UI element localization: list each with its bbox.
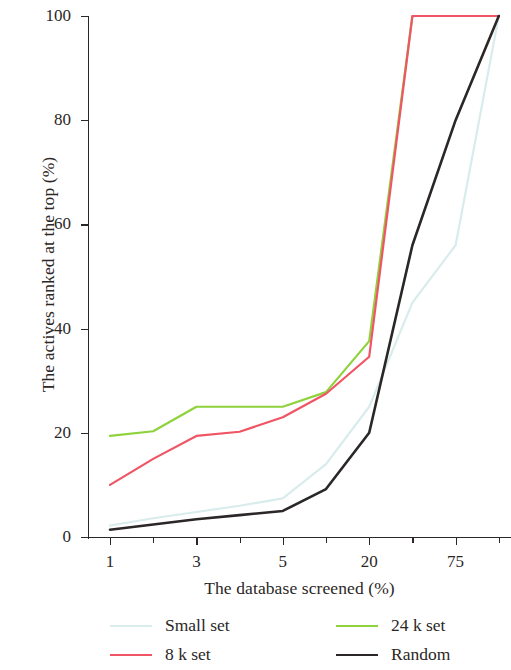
legend-item[interactable]: 24 k set bbox=[336, 612, 445, 639]
legend-swatch bbox=[110, 625, 152, 627]
legend-swatch bbox=[336, 654, 378, 656]
series-line bbox=[110, 16, 499, 436]
y-axis-tick: 60 bbox=[81, 224, 88, 225]
x-axis-tick-label: 3 bbox=[192, 552, 201, 572]
legend-item[interactable]: Small set bbox=[110, 612, 230, 639]
series-line bbox=[110, 16, 499, 526]
y-axis-tick-label: 20 bbox=[54, 423, 71, 443]
series-line bbox=[110, 16, 499, 485]
chart-legend: Small set8 k set24 k setRandom bbox=[88, 612, 511, 670]
legend-item[interactable]: 8 k set bbox=[110, 641, 211, 668]
y-axis-tick-label: 40 bbox=[54, 319, 71, 339]
legend-label: Random bbox=[391, 646, 450, 664]
x-axis-title: The database screened (%) bbox=[88, 578, 511, 599]
y-axis-tick-label: 0 bbox=[63, 527, 72, 547]
legend-label: Small set bbox=[165, 617, 230, 635]
x-axis-tick-label: 1 bbox=[106, 552, 115, 572]
y-axis-tick-label: 60 bbox=[54, 214, 71, 234]
x-axis-tick-major bbox=[110, 538, 111, 545]
y-axis-tick: 0 bbox=[81, 537, 88, 538]
x-axis-tick-major bbox=[196, 538, 197, 545]
x-axis-tick-major bbox=[369, 538, 370, 545]
plot-area: 020406080100 1352075 bbox=[88, 16, 511, 539]
y-axis-tick-label: 80 bbox=[54, 110, 71, 130]
legend-label: 8 k set bbox=[165, 646, 211, 664]
series-line bbox=[110, 16, 499, 530]
x-axis-tick-label: 75 bbox=[447, 552, 464, 572]
y-axis-tick: 100 bbox=[81, 16, 88, 17]
legend-item[interactable]: Random bbox=[336, 641, 450, 668]
y-axis-title: The actives ranked at the top (%) bbox=[38, 75, 59, 475]
series-lines bbox=[88, 16, 511, 539]
x-axis-tick-major bbox=[456, 538, 457, 545]
x-axis-tick-label: 20 bbox=[361, 552, 378, 572]
chart-figure: The actives ranked at the top (%) 020406… bbox=[0, 0, 511, 670]
x-axis-tick-label: 5 bbox=[279, 552, 288, 572]
legend-label: 24 k set bbox=[391, 617, 445, 635]
x-axis-tick-major bbox=[283, 538, 284, 545]
legend-swatch bbox=[336, 625, 378, 627]
y-axis-tick-label: 100 bbox=[46, 6, 72, 26]
legend-swatch bbox=[110, 654, 152, 656]
y-axis-tick: 40 bbox=[81, 329, 88, 330]
y-axis-tick: 20 bbox=[81, 433, 88, 434]
y-axis-tick: 80 bbox=[81, 120, 88, 121]
